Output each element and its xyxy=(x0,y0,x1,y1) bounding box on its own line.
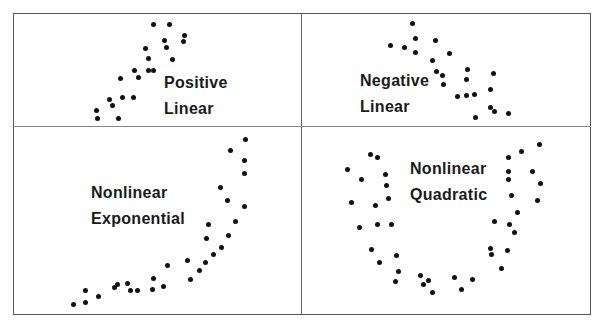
data-point xyxy=(394,253,399,258)
data-point xyxy=(219,245,224,250)
data-point xyxy=(211,252,216,257)
data-point xyxy=(452,275,457,280)
data-point xyxy=(470,277,475,282)
data-point xyxy=(112,285,117,290)
data-point xyxy=(164,45,169,50)
data-point xyxy=(441,82,446,87)
data-point xyxy=(203,260,208,265)
data-point xyxy=(242,158,247,163)
data-point xyxy=(421,282,426,287)
data-point xyxy=(182,33,187,38)
data-point xyxy=(150,287,155,292)
data-point xyxy=(242,171,247,176)
data-point xyxy=(345,167,350,172)
data-point xyxy=(413,36,418,41)
data-point xyxy=(349,200,354,205)
data-point xyxy=(488,246,493,251)
horizontal-divider xyxy=(13,126,591,127)
data-point xyxy=(413,50,418,55)
data-point xyxy=(135,288,140,293)
data-point xyxy=(71,302,76,307)
data-point xyxy=(146,56,151,61)
data-point xyxy=(151,68,156,73)
data-point xyxy=(509,193,514,198)
data-point xyxy=(537,142,542,147)
data-point xyxy=(110,103,115,108)
data-point xyxy=(377,260,382,265)
data-point xyxy=(132,68,137,73)
data-point xyxy=(492,109,497,114)
data-point xyxy=(430,290,435,295)
data-point xyxy=(96,294,101,299)
figure-border xyxy=(13,13,591,315)
data-point xyxy=(506,169,511,174)
data-point xyxy=(143,46,148,51)
data-point xyxy=(393,279,398,284)
data-point xyxy=(94,108,99,113)
data-point xyxy=(384,183,389,188)
data-point xyxy=(434,69,439,74)
data-point xyxy=(383,172,388,177)
data-point xyxy=(396,269,401,274)
data-point xyxy=(507,222,512,227)
data-point xyxy=(107,97,112,102)
data-point xyxy=(491,71,496,76)
data-point xyxy=(188,277,193,282)
data-point xyxy=(95,116,100,121)
data-point xyxy=(473,115,478,120)
data-point xyxy=(472,92,477,97)
data-point xyxy=(519,149,524,154)
data-point xyxy=(418,273,423,278)
scatter-correlation-figure: Positive Linear Negative Linear Nonlinea… xyxy=(0,0,601,324)
data-point xyxy=(161,284,166,289)
data-point xyxy=(181,39,186,44)
data-point xyxy=(440,73,445,78)
data-point xyxy=(535,198,540,203)
data-point xyxy=(464,93,469,98)
data-point xyxy=(375,222,380,227)
data-point xyxy=(402,45,407,50)
data-point xyxy=(206,222,211,227)
data-point xyxy=(430,58,435,63)
label-line-1: Negative xyxy=(360,68,429,94)
data-point xyxy=(120,95,125,100)
data-point xyxy=(488,87,493,92)
data-point xyxy=(218,185,223,190)
data-point xyxy=(357,225,362,230)
data-point xyxy=(455,94,460,99)
panel-label: Negative Linear xyxy=(360,68,429,120)
data-point xyxy=(197,268,202,273)
label-line-2: Exponential xyxy=(91,206,185,232)
label-line-1: Nonlinear xyxy=(91,180,185,206)
data-point xyxy=(489,252,494,257)
data-point xyxy=(162,38,167,43)
data-point xyxy=(167,22,172,27)
data-point xyxy=(243,137,248,142)
label-line-2: Quadratic xyxy=(410,182,487,208)
data-point xyxy=(512,230,517,235)
data-point xyxy=(359,177,364,182)
data-point xyxy=(530,169,535,174)
vertical-divider xyxy=(301,13,302,315)
data-point xyxy=(233,219,238,224)
data-point xyxy=(465,67,470,72)
data-point xyxy=(170,57,175,62)
data-point xyxy=(375,155,380,160)
data-point xyxy=(538,181,543,186)
data-point xyxy=(389,222,394,227)
data-point xyxy=(447,51,452,56)
data-point xyxy=(146,68,151,73)
data-point xyxy=(426,278,431,283)
data-point xyxy=(492,219,497,224)
panel-label: Nonlinear Quadratic xyxy=(410,156,487,208)
label-line-2: Linear xyxy=(164,96,228,122)
data-point xyxy=(505,248,510,253)
data-point xyxy=(410,21,415,26)
data-point xyxy=(151,22,156,27)
data-point xyxy=(136,75,141,80)
panel-label: Positive Linear xyxy=(164,70,228,122)
data-point xyxy=(226,233,231,238)
data-point xyxy=(506,111,511,116)
data-point xyxy=(242,204,247,209)
data-point xyxy=(151,276,156,281)
